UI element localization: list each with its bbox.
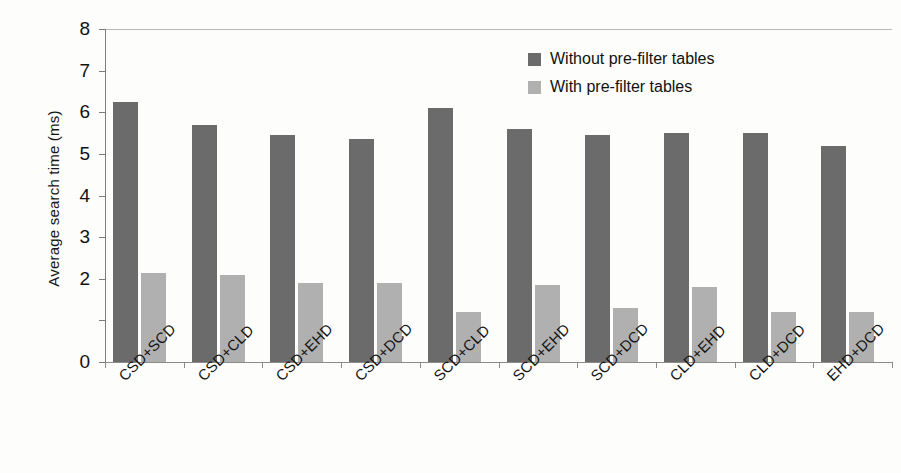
- bar: [192, 125, 217, 362]
- y-axis-tick: 8: [99, 29, 105, 30]
- y-axis-tick-label: 5: [79, 143, 90, 165]
- bar: [585, 135, 610, 362]
- legend-item: Without pre-filter tables: [528, 45, 715, 73]
- y-axis-tick: 6: [99, 112, 105, 113]
- legend-item-label: Without pre-filter tables: [550, 50, 715, 68]
- x-axis-tick: [813, 362, 814, 368]
- y-axis-tick: 5: [99, 154, 105, 155]
- y-axis-tick-label: 7: [79, 60, 90, 82]
- bar: [664, 133, 689, 362]
- y-axis-tick-label: 6: [79, 101, 90, 123]
- y-axis-tick-label: 8: [79, 18, 90, 40]
- bar: [821, 146, 846, 362]
- y-axis-tick-label: 4: [79, 185, 90, 207]
- x-axis-tick: [499, 362, 500, 368]
- plot-area: 02345678: [105, 29, 892, 362]
- bar: [428, 108, 453, 362]
- bar: [743, 133, 768, 362]
- y-axis-tick-label: 0: [79, 351, 90, 373]
- bar: [349, 139, 374, 362]
- y-axis-line: [105, 29, 106, 362]
- y-axis-title: Average search time (ms): [45, 49, 62, 349]
- y-axis-tick: 7: [99, 71, 105, 72]
- x-axis-tick: [420, 362, 421, 368]
- bar: [113, 102, 138, 362]
- x-axis-tick: [105, 362, 106, 368]
- bar-chart-figure: Average search time (ms) 02345678 CSD+SC…: [0, 0, 901, 473]
- light-gray-swatch: [528, 81, 541, 94]
- legend-item-label: With pre-filter tables: [550, 78, 692, 96]
- x-axis-tick: [892, 362, 893, 368]
- bar: [270, 135, 295, 362]
- x-axis-tick: [184, 362, 185, 368]
- plot-top-border: [105, 29, 892, 30]
- y-axis-tick: 2: [99, 279, 105, 280]
- x-axis-tick: [262, 362, 263, 368]
- y-axis-tick-label: 3: [79, 226, 90, 248]
- y-axis-tick: 4: [99, 196, 105, 197]
- x-axis-tick: [341, 362, 342, 368]
- x-axis-tick: [735, 362, 736, 368]
- x-axis-tick: [656, 362, 657, 368]
- dark-gray-swatch: [528, 53, 541, 66]
- legend-item: With pre-filter tables: [528, 73, 715, 101]
- y-axis-tick: 3: [99, 237, 105, 238]
- chart-legend: Without pre-filter tablesWith pre-filter…: [528, 45, 715, 101]
- bar: [507, 129, 532, 362]
- y-axis-tick: [99, 320, 105, 321]
- x-axis-tick: [577, 362, 578, 368]
- y-axis-tick-label: 2: [79, 268, 90, 290]
